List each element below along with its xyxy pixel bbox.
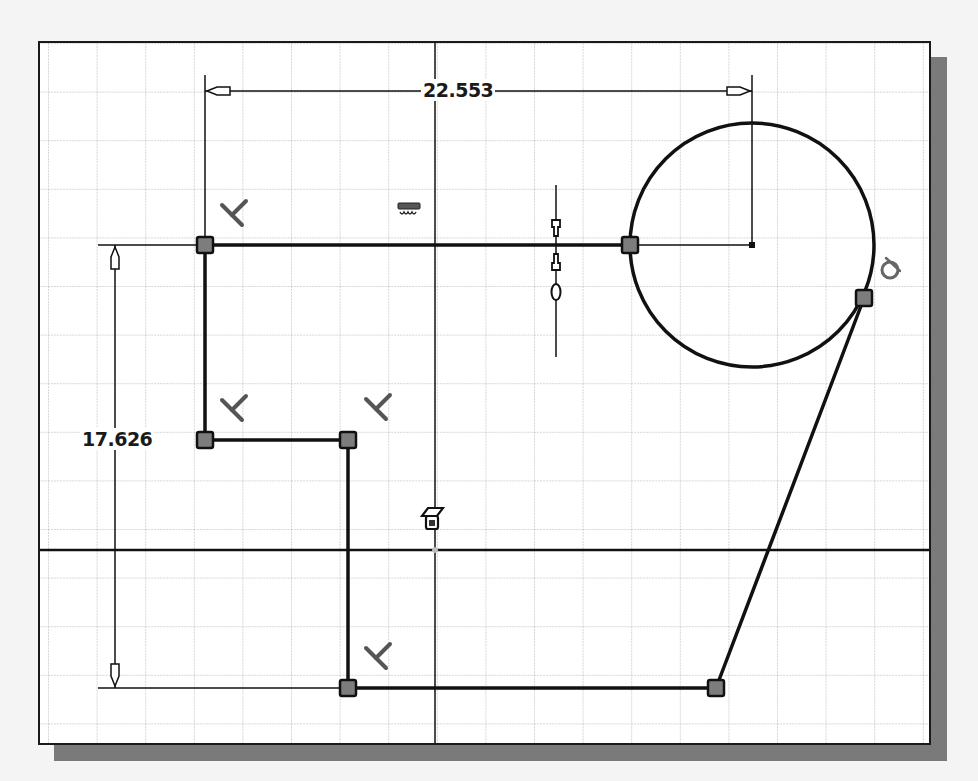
grid [40, 43, 931, 745]
sketch-canvas[interactable]: 22.553 17.626 [38, 41, 931, 745]
origin-point [432, 547, 438, 553]
dimension-horizontal-value[interactable]: 22.553 [421, 79, 495, 101]
dimension-vertical-value[interactable]: 17.626 [80, 428, 154, 450]
sketch-svg[interactable] [40, 43, 931, 745]
circle-center-point[interactable] [749, 242, 755, 248]
